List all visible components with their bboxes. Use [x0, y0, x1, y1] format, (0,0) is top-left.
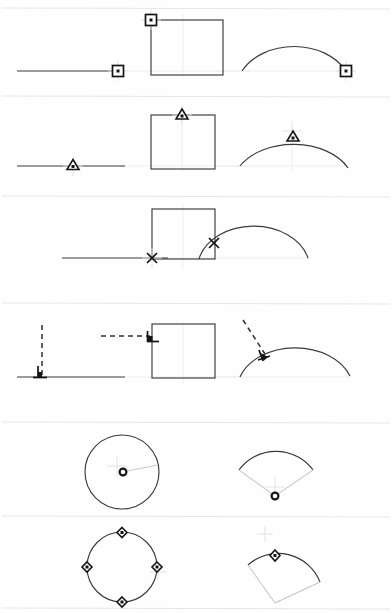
snap-reference-sheet [0, 0, 392, 613]
cell-endpoint-square [141, 10, 223, 75]
construction-line-diagonal [243, 320, 265, 354]
row-endpoint [17, 10, 356, 81]
row-separator-6 [2, 516, 390, 517]
row-separator-3 [2, 196, 390, 197]
crosshair-cursor [257, 526, 273, 542]
cell-midpoint-line [17, 156, 125, 176]
sector-shape [248, 553, 320, 603]
row-separator-1 [2, 8, 390, 9]
arc-shape [240, 144, 348, 168]
endpoint-marker [341, 66, 352, 77]
arc-shape [240, 348, 350, 377]
quadrant-marker-right [152, 562, 162, 572]
midpoint-marker [67, 160, 79, 170]
cell-perpendicular-arc [240, 320, 350, 377]
row-separator-4 [2, 303, 390, 304]
row-intersection [62, 205, 310, 270]
quadrant-marker-bottom [117, 597, 127, 607]
endpoint-marker [146, 15, 157, 26]
quadrant-marker-left [82, 562, 92, 572]
cell-quadrant-circle [82, 528, 166, 608]
cell-endpoint-line [17, 61, 128, 81]
circle-shape [87, 532, 157, 602]
center-marker [272, 493, 279, 500]
sector-shape [239, 451, 313, 496]
row-midpoint [17, 105, 348, 176]
quadrant-marker-top [117, 528, 127, 538]
cell-perpendicular-line [17, 325, 125, 378]
cell-endpoint-arc [242, 46, 356, 81]
drawing-canvas [0, 0, 392, 613]
radius-line [122, 465, 158, 472]
row-separator-2 [2, 96, 390, 97]
midpoint-marker [287, 131, 299, 141]
intersection-marker-arc-square [209, 238, 219, 248]
cell-quadrant-sector [248, 526, 320, 603]
perpendicular-marker [147, 331, 159, 342]
cell-center-sector [239, 451, 313, 499]
cell-midpoint-square [151, 105, 215, 169]
row-perpendicular [17, 320, 350, 384]
row-quadrant [82, 526, 320, 607]
square-shape [151, 20, 223, 75]
row-separator-5 [2, 422, 390, 423]
arc-shape [242, 46, 346, 71]
endpoint-marker [113, 66, 124, 77]
cell-center-circle [85, 435, 159, 509]
cell-perpendicular-square [101, 324, 215, 378]
intersection-marker-line-square [142, 248, 162, 268]
midpoint-marker [176, 109, 188, 119]
cell-midpoint-arc [240, 121, 348, 168]
row-separator-7 [2, 608, 390, 609]
square-shape [151, 115, 215, 169]
row-separators [2, 8, 390, 609]
center-marker [120, 469, 127, 476]
row-center [85, 435, 313, 509]
perpendicular-marker [33, 366, 47, 378]
